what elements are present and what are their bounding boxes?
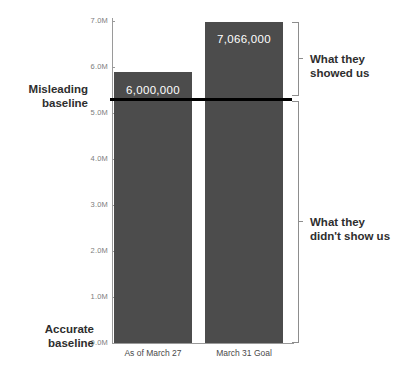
misleading-baseline-label: Misleading baseline xyxy=(0,82,88,110)
y-tick-label: 1.0M xyxy=(86,292,108,301)
bar-value-label-as-of-march-27: 6,000,000 xyxy=(114,84,192,96)
bracket-nub-showed-us xyxy=(299,58,303,59)
y-tick-label: 7.0M xyxy=(86,16,108,25)
bracket-showed-us xyxy=(292,22,299,96)
y-tick-2-0m: 2.0M xyxy=(86,246,108,256)
bar-as-of-march-27 xyxy=(114,72,192,343)
bracket-didnt-show-us xyxy=(292,101,299,343)
x-axis-line xyxy=(112,343,294,344)
y-tick-label: 6.0M xyxy=(86,62,108,71)
y-tick-7-0m: 7.0M xyxy=(86,16,108,26)
bar-chart: 7.0M 6.0M 5.0M 4.0M 3.0M 2.0M 1.0M 0.0M … xyxy=(0,0,416,374)
bracket-label-didnt-show-us: What they didn't show us xyxy=(310,215,390,243)
bar-march-31-goal xyxy=(205,22,283,343)
bar-value-label-march-31-goal: 7,066,000 xyxy=(205,33,283,45)
y-tick-mark xyxy=(112,67,115,68)
y-tick-label: 2.0M xyxy=(86,246,108,255)
x-tick-label-as-of-march-27: As of March 27 xyxy=(114,348,192,358)
y-tick-mark xyxy=(112,21,115,22)
y-tick-label: 5.0M xyxy=(86,108,108,117)
x-tick-label-march-31-goal: March 31 Goal xyxy=(205,348,283,358)
bracket-nub-didnt-show-us xyxy=(299,221,303,222)
bracket-label-showed-us: What they showed us xyxy=(310,52,369,80)
y-tick-6-0m: 6.0M xyxy=(86,62,108,72)
y-tick-mark xyxy=(112,343,115,344)
y-tick-1-0m: 1.0M xyxy=(86,292,108,302)
y-tick-label: 3.0M xyxy=(86,200,108,209)
y-tick-5-0m: 5.0M xyxy=(86,108,108,118)
accurate-baseline-label: Accurate baseline xyxy=(0,322,94,350)
y-tick-label: 4.0M xyxy=(86,154,108,163)
misleading-baseline-line xyxy=(110,98,292,101)
y-tick-4-0m: 4.0M xyxy=(86,154,108,164)
y-tick-3-0m: 3.0M xyxy=(86,200,108,210)
